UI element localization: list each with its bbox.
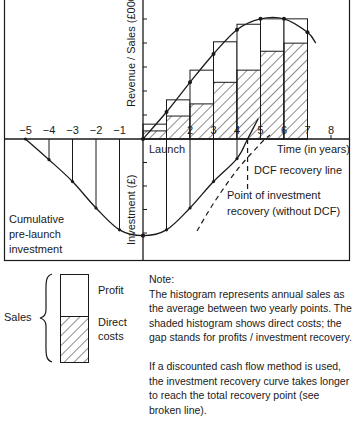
pre-launch-label-line3: investment: [9, 243, 62, 255]
investment-curve-point: [47, 158, 50, 161]
investment-curve-point: [94, 206, 97, 209]
time-axis-tick-label: −3: [66, 124, 79, 136]
time-axis-tick-label: 7: [304, 124, 310, 136]
time-axis-tick-label: 2: [187, 124, 193, 136]
sales-curve-point: [165, 110, 169, 114]
sales-curve-point: [282, 17, 286, 21]
sales-curve-point: [212, 52, 216, 56]
note-block: Note: The histogram represents annual sa…: [149, 272, 354, 421]
time-axis-tick-label: 6: [281, 124, 287, 136]
legend-swatch-profit: [61, 275, 89, 317]
time-axis-tick-label: 5: [257, 124, 263, 136]
sales-curve-point: [188, 80, 192, 84]
x-axis-label: Time (in years): [277, 143, 350, 155]
legend-brace: [40, 274, 52, 362]
time-axis-tick-label: 8: [328, 124, 334, 136]
note-title: Note:: [149, 272, 354, 287]
investment-curve-point: [165, 228, 168, 231]
legend-swatch-direct-costs: [61, 317, 89, 363]
legend-label-direct: Direct: [98, 316, 127, 328]
investment-curve-point: [118, 228, 121, 231]
recovery-point-label-line1: Point of investment: [227, 189, 321, 201]
legend-label-costs: costs: [98, 330, 124, 342]
time-axis-tick-label: −4: [43, 124, 56, 136]
pre-launch-label-line2: pre-launch: [9, 228, 61, 240]
time-axis-tick-label: −2: [90, 124, 103, 136]
histogram: [143, 19, 308, 139]
legend: Sales Profit Direct costs: [4, 274, 127, 363]
recovery-point-label-line2: recovery (without DCF): [227, 205, 340, 217]
pre-launch-label-line1: Cumulative: [9, 213, 64, 225]
y-axis-lower-label: Investment (£): [125, 175, 137, 245]
sales-curve-point: [306, 30, 310, 34]
investment-curve-point: [188, 206, 191, 209]
sales-curve-point: [141, 137, 145, 141]
investment-curve-point: [24, 137, 27, 140]
time-axis-tick-label: 3: [210, 124, 216, 136]
launch-label: Launch: [149, 143, 185, 155]
y-axis-upper-label: Revenue / Sales (£000s): [125, 0, 137, 107]
investment-curve-point: [71, 180, 74, 183]
investment-curve-point: [235, 157, 238, 160]
note-paragraph-1: The histogram represents annual sales as…: [149, 287, 354, 345]
time-axis-tick-label: −5: [19, 124, 32, 136]
legend-label-profit: Profit: [98, 284, 124, 296]
time-axis-tick-label: −1: [113, 124, 126, 136]
sales-curve-point: [235, 28, 239, 32]
time-axis-tick-label: 4: [234, 124, 240, 136]
note-paragraph-2: If a discounted cash flow method is used…: [149, 359, 354, 417]
sales-curve-point: [259, 17, 263, 21]
investment-curve-point: [141, 233, 145, 237]
dcf-label: DCF recovery line: [254, 164, 342, 176]
legend-group-label: Sales: [4, 311, 32, 323]
investment-curve-point: [212, 180, 215, 183]
